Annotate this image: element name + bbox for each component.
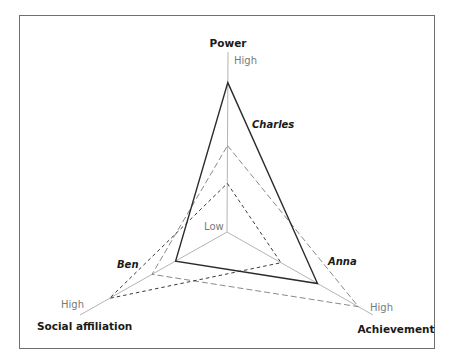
axes: [80, 52, 373, 315]
axis-title-power: Power: [210, 37, 248, 49]
series-label-ben: Ben: [117, 259, 139, 270]
axis-title-social-affiliation: Social affiliation: [37, 320, 132, 332]
series-charles-polygon: [176, 83, 318, 284]
high-label-social: High: [61, 299, 84, 310]
low-label: Low: [204, 221, 224, 232]
radar-chart: Power Achievement Social affiliation Hig…: [0, 0, 454, 360]
high-label-achievement: High: [370, 302, 393, 313]
axis-social-affiliation: [80, 232, 227, 315]
series-label-anna: Anna: [327, 256, 357, 267]
axis-title-achievement: Achievement: [357, 323, 434, 335]
series-anna-polygon: [152, 146, 358, 307]
high-label-power: High: [234, 55, 257, 66]
axis-power: [227, 52, 228, 232]
series-label-charles: Charles: [252, 119, 294, 130]
